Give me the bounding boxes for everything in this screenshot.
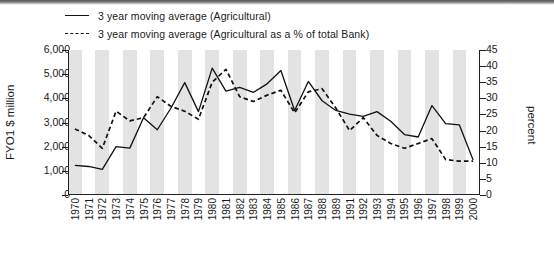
y-axis-right-tick-mark — [480, 163, 486, 164]
legend-item-agricultural: 3 year moving average (Agricultural) — [64, 8, 369, 23]
x-axis-tick-label: 1989 — [331, 198, 342, 220]
y-axis-left-tick-label: 4,000 — [10, 91, 70, 103]
x-axis-tick-label: 1970 — [70, 198, 81, 220]
x-axis-tick-label: 1996 — [413, 198, 424, 220]
x-axis-tick-label: 1983 — [248, 198, 259, 220]
x-axis-tick-label: 1994 — [386, 198, 397, 220]
y-axis-right-tick-mark — [480, 50, 486, 51]
dashed-line-key-icon — [64, 28, 90, 39]
y-axis-right-tick-label: 15 — [486, 140, 526, 152]
y-axis-left-tick-mark — [62, 195, 68, 196]
x-axis-tick-label: 1976 — [152, 198, 163, 220]
x-axis-tick-label: 1991 — [345, 198, 356, 220]
y-axis-right-tick-label: 5 — [486, 172, 526, 184]
x-axis-tick-label: 1973 — [111, 198, 122, 220]
x-axis-tick-label: 1998 — [441, 198, 452, 220]
scan-artifact-strip — [0, 0, 554, 5]
x-axis-tick-label: 1974 — [125, 198, 136, 220]
x-axis-tick-label: 1982 — [235, 198, 246, 220]
y-axis-right-tick-mark — [480, 147, 486, 148]
x-axis-tick-label: 1984 — [262, 198, 273, 220]
x-axis-tick-label: 1986 — [290, 198, 301, 220]
y-axis-right-tick-label: 25 — [486, 107, 526, 119]
y-axis-left-tick-label: 1,000 — [10, 164, 70, 176]
y-axis-right-tick-label: 30 — [486, 91, 526, 103]
x-axis-tick-label: 1975 — [139, 198, 150, 220]
x-axis-tick-label: 1977 — [166, 198, 177, 220]
x-axis-tick-label: 1981 — [221, 198, 232, 220]
legend-label-agricultural-percent: 3 year moving average (Agricultural as a… — [98, 28, 369, 40]
x-axis-tick-label: 1988 — [317, 198, 328, 220]
solid-line-key-icon — [64, 10, 90, 21]
y-axis-left-tick-label: 0 — [10, 188, 70, 200]
x-axis-tick-labels: 1970197119721973197419751976197719781979… — [68, 198, 480, 258]
x-axis-tick-label: 1972 — [97, 198, 108, 220]
y-axis-right-tick-mark — [480, 179, 486, 180]
x-axis-tick-label: 1992 — [358, 198, 369, 220]
y-axis-left-tick-label: 5,000 — [10, 67, 70, 79]
x-axis-tick-label: 1979 — [193, 198, 204, 220]
plot-area — [68, 50, 480, 195]
y-axis-right-tick-mark — [480, 82, 486, 83]
x-axis-tick-label: 1971 — [84, 198, 95, 220]
y-axis-right-tick-label: 20 — [486, 124, 526, 136]
y-axis-right-tick-label: 0 — [486, 188, 526, 200]
series-line-agricultural — [75, 68, 473, 169]
y-axis-right-tick-mark — [480, 98, 486, 99]
x-axis-tick-label: 1997 — [427, 198, 438, 220]
legend-item-agricultural-percent: 3 year moving average (Agricultural as a… — [64, 26, 369, 41]
chart-legend: 3 year moving average (Agricultural) 3 y… — [64, 8, 369, 44]
x-axis-tick-label: 1993 — [372, 198, 383, 220]
y-axis-right-tick-label: 10 — [486, 156, 526, 168]
series-lines — [68, 50, 480, 195]
chart-container: 3 year moving average (Agricultural) 3 y… — [0, 0, 554, 266]
x-axis-tick-label: 1999 — [454, 198, 465, 220]
series-line-agricultural-percent — [75, 69, 473, 161]
y-axis-left-tick-label: 3,000 — [10, 116, 70, 128]
legend-label-agricultural: 3 year moving average (Agricultural) — [98, 10, 271, 22]
x-axis-tick-label: 1995 — [399, 198, 410, 220]
y-axis-right-tick-label: 45 — [486, 43, 526, 55]
y-axis-right-tick-label: 40 — [486, 59, 526, 71]
x-axis-tick-label: 2000 — [468, 198, 479, 220]
y-axis-right-tick-mark — [480, 195, 486, 196]
y-axis-right-tick-mark — [480, 131, 486, 132]
y-axis-left-tick-label: 6,000 — [10, 43, 70, 55]
y-axis-right-tick-mark — [480, 114, 486, 115]
y-axis-right-title: percent — [524, 80, 540, 170]
x-axis-tick-label: 1978 — [180, 198, 191, 220]
x-axis-tick-label: 1985 — [276, 198, 287, 220]
y-axis-right-tick-mark — [480, 66, 486, 67]
x-axis-tick-label: 1987 — [303, 198, 314, 220]
x-axis-tick-label: 1980 — [207, 198, 218, 220]
y-axis-left-tick-label: 2,000 — [10, 140, 70, 152]
y-axis-right-tick-label: 35 — [486, 75, 526, 87]
